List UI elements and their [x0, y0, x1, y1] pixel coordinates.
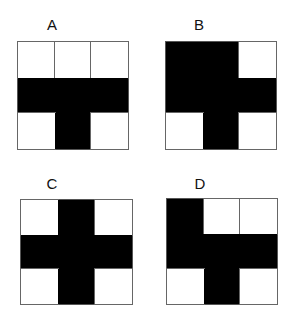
grid-cell-empty	[95, 200, 132, 235]
grid-cell-empty	[91, 42, 128, 78]
grid-cell-filled	[58, 200, 95, 235]
figure-label-d: D	[190, 176, 210, 191]
grid-cell-filled	[166, 42, 203, 78]
grid-cell-filled	[55, 78, 92, 114]
grid-cell-filled	[91, 78, 128, 114]
grid-cell-filled	[203, 42, 240, 78]
grid-cell-empty	[239, 42, 276, 78]
grid-cell-filled	[55, 113, 92, 149]
grid-cell-filled	[21, 235, 58, 270]
grid-cell-filled	[203, 113, 240, 149]
grid-cell-filled	[204, 269, 241, 304]
grid-cell-empty	[240, 269, 277, 304]
grid-cell-filled	[204, 234, 241, 269]
figure-label-a: A	[42, 17, 62, 32]
grid-c	[20, 199, 133, 305]
grid-d	[166, 198, 278, 305]
grid-a	[17, 41, 129, 150]
grid-cell-empty	[91, 113, 128, 149]
grid-cell-filled	[167, 199, 204, 234]
grid-b	[165, 41, 277, 150]
grid-cell-filled	[58, 269, 95, 304]
grid-cell-filled	[58, 235, 95, 270]
grid-cell-empty	[21, 200, 58, 235]
figure-label-c: C	[42, 176, 62, 191]
grid-cell-filled	[240, 234, 277, 269]
grid-cell-empty	[239, 113, 276, 149]
grid-cell-filled	[95, 235, 132, 270]
grid-cell-empty	[18, 113, 55, 149]
grid-cell-empty	[167, 269, 204, 304]
grid-cell-empty	[95, 269, 132, 304]
grid-cell-empty	[55, 42, 92, 78]
grid-cell-empty	[21, 269, 58, 304]
grid-cell-filled	[239, 78, 276, 114]
grid-cell-filled	[203, 78, 240, 114]
grid-cell-empty	[18, 42, 55, 78]
grid-cell-empty	[240, 199, 277, 234]
grid-cell-empty	[204, 199, 241, 234]
grid-cell-filled	[18, 78, 55, 114]
figure-label-b: B	[189, 17, 209, 32]
grid-cell-empty	[166, 113, 203, 149]
grid-cell-filled	[167, 234, 204, 269]
grid-cell-filled	[166, 78, 203, 114]
